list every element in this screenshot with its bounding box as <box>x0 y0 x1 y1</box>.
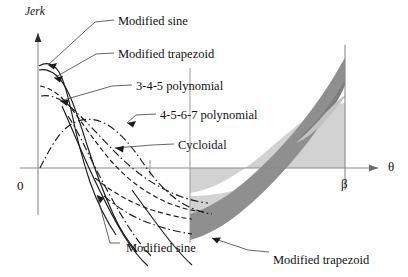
curve-345-return <box>95 178 192 219</box>
x-axis-arrow <box>369 165 378 172</box>
curve-cycloidal-branch <box>68 116 152 257</box>
leader-modified-trapezoid-top <box>54 53 114 78</box>
callout-modified-trapezoid-top: Modified trapezoid <box>118 47 214 62</box>
curve-4567-polynomial <box>40 119 212 214</box>
callout-345-polynomial: 3-4-5 polynomial <box>136 79 223 94</box>
curve-4567-return <box>104 196 192 234</box>
x-axis-label: θ <box>388 159 394 175</box>
y-axis-label: Jerk <box>25 5 45 17</box>
callout-modified-sine-bottom: Modified sine <box>126 241 196 256</box>
curve-modified-sine <box>39 70 137 252</box>
y-axis-arrow <box>35 33 42 42</box>
leader-arrow-5 <box>115 146 124 153</box>
callout-cycloidal: Cycloidal <box>178 138 227 153</box>
beta-label: β <box>341 176 348 192</box>
callout-4567-polynomial: 4-5-6-7 polynomial <box>160 108 258 123</box>
leader-modified-trapezoid-bottom <box>212 238 269 252</box>
origin-label: 0 <box>17 178 24 194</box>
callout-modified-trapezoid-bottom: Modified trapezoid <box>273 253 369 268</box>
leader-modified-sine-top <box>48 20 114 65</box>
leader-4567 <box>127 114 156 123</box>
callout-modified-sine-top: Modified sine <box>118 14 188 29</box>
curve-group <box>39 64 212 266</box>
